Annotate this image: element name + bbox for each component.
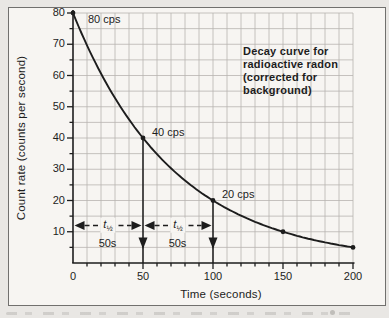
y-tick-label: 10 — [33, 225, 65, 237]
x-tick-label: 0 — [70, 270, 76, 282]
x-tick-label: 150 — [274, 270, 292, 282]
x-tick-label: 200 — [344, 270, 362, 282]
chart-title-line: radioactive radon — [243, 58, 338, 71]
point-annotation: 20 cps — [222, 188, 254, 200]
half-life-duration: 50s — [99, 237, 117, 249]
half-life-symbol: t½ — [100, 217, 115, 232]
y-tick-label: 50 — [33, 100, 65, 112]
y-tick-label: 60 — [33, 69, 65, 81]
y-tick-label: 80 — [33, 6, 65, 18]
chart-title-line: background) — [243, 84, 338, 97]
cropped-caption-mark — [330, 310, 335, 315]
point-annotation: 80 cps — [88, 13, 120, 25]
chart-title-line: Decay curve for — [243, 45, 338, 58]
chart-title-line: (corrected for — [243, 71, 338, 84]
y-tick-label: 40 — [33, 131, 65, 143]
x-tick-label: 100 — [204, 270, 222, 282]
cropped-caption-fragment — [6, 312, 358, 315]
x-tick-label: 50 — [137, 270, 149, 282]
half-life-duration: 50s — [169, 237, 187, 249]
point-annotation: 40 cps — [152, 126, 184, 138]
scanned-figure-page: Count rate (counts per second) Time (sec… — [0, 0, 389, 318]
y-tick-label: 30 — [33, 162, 65, 174]
y-tick-label: 20 — [33, 194, 65, 206]
half-life-symbol: t½ — [170, 217, 185, 232]
x-axis-title: Time (seconds) — [180, 288, 262, 300]
chart-title: Decay curve for radioactive radon (corre… — [243, 45, 338, 97]
y-tick-label: 70 — [33, 37, 65, 49]
y-axis-title: Count rate (counts per second) — [15, 56, 27, 221]
